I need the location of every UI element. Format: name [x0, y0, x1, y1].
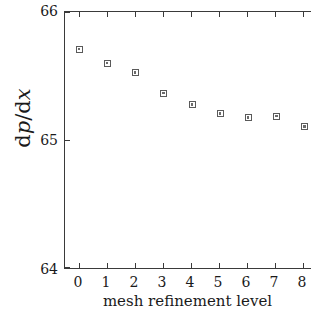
- x-tick-6: [247, 263, 248, 268]
- x-tick-label-5: 5: [208, 274, 228, 290]
- y-axis-label-x: x: [11, 88, 35, 100]
- x-tick-top-5: [219, 12, 220, 17]
- y-tick-65: [65, 140, 70, 141]
- data-point: [160, 90, 167, 97]
- data-point: [245, 114, 252, 121]
- x-tick-3: [163, 263, 164, 268]
- x-tick-label-7: 7: [264, 274, 284, 290]
- x-tick-top-1: [107, 12, 108, 17]
- x-tick-top-8: [303, 12, 304, 17]
- y-tick-66: [65, 12, 70, 13]
- x-tick-1: [107, 263, 108, 268]
- chart-figure: 66 65 64 dp/dx 0: [0, 0, 311, 316]
- x-tick-2: [135, 263, 136, 268]
- x-tick-label-1: 1: [96, 274, 116, 290]
- data-point: [132, 69, 139, 76]
- data-point: [273, 113, 280, 120]
- y-tick-64: [65, 267, 70, 268]
- x-tick-8: [303, 263, 304, 268]
- x-tick-top-0: [79, 12, 80, 17]
- x-tick-top-6: [247, 12, 248, 17]
- x-tick-7: [275, 263, 276, 268]
- x-tick-label-3: 3: [152, 274, 172, 290]
- y-axis-label-d1: d: [11, 134, 35, 147]
- x-tick-0: [79, 263, 80, 268]
- data-point: [217, 110, 224, 117]
- plot-area: [64, 11, 311, 269]
- y-axis-label-slash: /: [11, 114, 35, 121]
- x-tick-label-2: 2: [124, 274, 144, 290]
- x-tick-top-7: [275, 12, 276, 17]
- data-point: [104, 60, 111, 67]
- x-axis-label: mesh refinement level: [64, 292, 311, 310]
- x-tick-label-6: 6: [236, 274, 256, 290]
- x-tick-label-8: 8: [292, 274, 311, 290]
- y-axis-label: dp/dx: [11, 53, 35, 183]
- x-tick-label-4: 4: [180, 274, 200, 290]
- x-tick-top-4: [191, 12, 192, 17]
- data-point: [76, 46, 83, 53]
- x-tick-5: [219, 263, 220, 268]
- x-tick-top-3: [163, 12, 164, 17]
- y-axis-label-p: p: [11, 121, 35, 134]
- x-tick-top-2: [135, 12, 136, 17]
- y-axis-label-d2: d: [11, 100, 35, 113]
- data-point: [301, 123, 308, 130]
- x-tick-4: [191, 263, 192, 268]
- y-tick-label-65: 65: [40, 132, 58, 148]
- x-tick-label-0: 0: [68, 274, 88, 290]
- y-tick-label-66: 66: [40, 3, 58, 19]
- data-point: [189, 101, 196, 108]
- y-tick-label-64: 64: [40, 261, 58, 277]
